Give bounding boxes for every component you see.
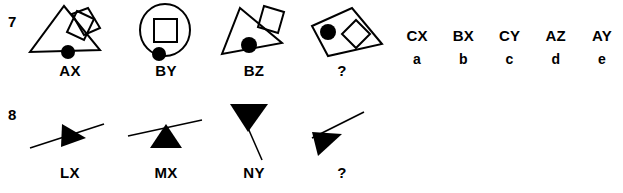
answer-option-key: a xyxy=(396,52,438,67)
right-triangle-on-rising-line-icon xyxy=(22,102,118,164)
stimulus-figure-lx: LX xyxy=(22,96,118,192)
answer-option-b[interactable]: BX b xyxy=(442,28,484,66)
stimulus-figure-unknown: ? xyxy=(294,0,390,96)
up-triangle-under-rising-line-icon xyxy=(118,102,214,164)
stimulus-figure-mx: MX xyxy=(118,96,214,192)
problem-row-7: 7 AX BY xyxy=(0,0,623,96)
stimulus-figure-by: BY xyxy=(118,0,214,96)
problem-number: 7 xyxy=(8,14,16,29)
tilted-triangle-with-square-and-dot-icon xyxy=(206,0,302,62)
down-triangle-on-falling-line-icon xyxy=(206,102,302,164)
figure-label: BZ xyxy=(206,62,302,79)
triangle-with-two-rhombi-and-dot-icon xyxy=(22,0,118,62)
answer-option-code: CY xyxy=(489,28,531,44)
figure-label: NY xyxy=(206,164,302,181)
answer-option-code: CX xyxy=(396,28,438,44)
stimulus-figure-ax: AX xyxy=(22,0,118,96)
answer-option-key: c xyxy=(489,52,531,67)
answer-option-code: BX xyxy=(442,28,484,44)
answer-option-code: AZ xyxy=(535,28,577,44)
figure-label: LX xyxy=(22,164,118,181)
figure-label: ? xyxy=(294,164,390,181)
circle-with-square-and-dot-icon xyxy=(118,0,214,62)
left-triangle-with-rising-line-icon xyxy=(294,102,390,164)
stimulus-figure-ny: NY xyxy=(206,96,302,192)
stimulus-figure-unknown: ? xyxy=(294,96,390,192)
figure-label: BY xyxy=(118,62,214,79)
answer-option-d[interactable]: AZ d xyxy=(535,28,577,66)
stimulus-figure-bz: BZ xyxy=(206,0,302,96)
worksheet: 7 AX BY xyxy=(0,0,623,193)
answer-option-code: AY xyxy=(581,28,623,44)
figure-label: ? xyxy=(294,62,390,79)
answer-option-key: d xyxy=(535,52,577,67)
figure-label: AX xyxy=(22,62,118,79)
answer-option-key: b xyxy=(442,52,484,67)
answer-option-c[interactable]: CY c xyxy=(489,28,531,66)
answer-option-key: e xyxy=(581,52,623,67)
parallelogram-with-rhombus-and-dot-icon xyxy=(294,0,390,62)
answer-option-a[interactable]: CX a xyxy=(396,28,438,66)
answer-options-row-7: CX a BX b CY c AZ d AY e xyxy=(396,28,623,66)
figure-label: MX xyxy=(118,164,214,181)
answer-option-e[interactable]: AY e xyxy=(581,28,623,66)
problem-row-8: 8 LX MX xyxy=(0,96,623,193)
problem-number: 8 xyxy=(8,107,16,122)
